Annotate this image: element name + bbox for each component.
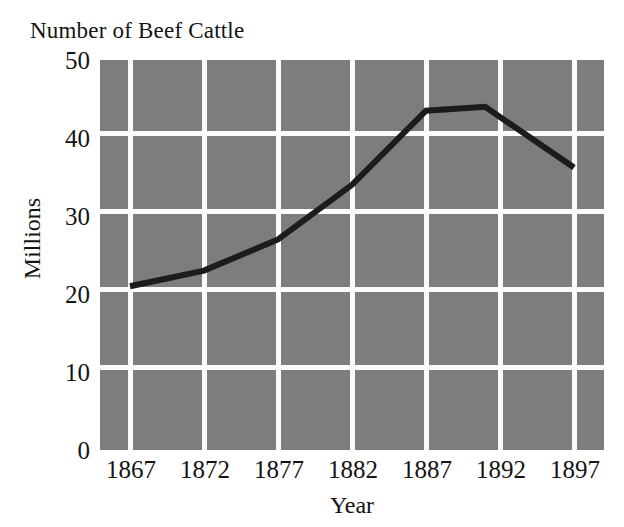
plot-area (100, 60, 604, 450)
y-tick-40: 40 (34, 126, 90, 151)
y-tick-10: 10 (34, 360, 90, 385)
data-line-series (100, 60, 604, 450)
x-axis-label: Year (100, 492, 604, 519)
x-axis-tick-labels: 1867 1872 1877 1882 1887 1892 1897 (100, 455, 604, 489)
y-axis-label: Millions (19, 169, 46, 309)
x-tick-1897: 1897 (530, 455, 620, 485)
y-tick-0: 0 (34, 438, 90, 463)
beef-cattle-line-chart: Number of Beef Cattle 50 40 30 20 10 0 M… (0, 0, 624, 527)
y-tick-50: 50 (34, 48, 90, 73)
